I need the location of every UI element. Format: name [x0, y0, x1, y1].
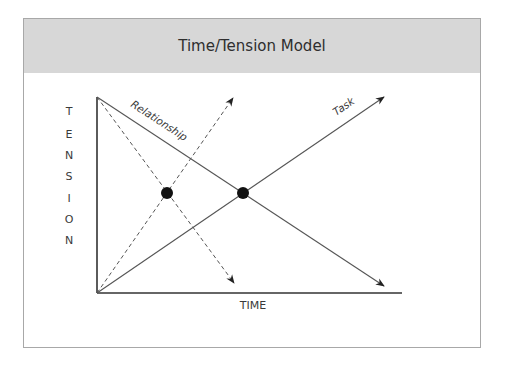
solid-crossover-dot: [237, 187, 249, 199]
y-axis-letter: N: [65, 234, 73, 247]
y-axis-letter: E: [66, 128, 73, 141]
y-axis-letter: T: [65, 105, 73, 118]
time-tension-diagram: Relationship Task T E N S I O N TIME: [0, 0, 505, 371]
y-axis-letter: S: [66, 170, 73, 183]
relationship-label: Relationship: [129, 98, 190, 144]
y-axis-letter: I: [67, 192, 70, 205]
y-axis-letter: N: [65, 149, 73, 162]
task-label: Task: [330, 94, 357, 117]
dashed-crossover-dot: [161, 187, 173, 199]
x-axis-label: TIME: [239, 299, 266, 312]
y-axis-letter: O: [65, 213, 74, 226]
